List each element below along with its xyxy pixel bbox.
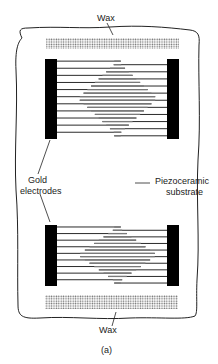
substrate-label-line1: Piezoceramic — [155, 176, 209, 186]
wax-bottom-label: Wax — [99, 325, 117, 335]
top-transducer — [45, 59, 179, 139]
right-electrode-bar — [167, 225, 179, 286]
gold-bottom-leader — [40, 194, 50, 222]
right-electrode-bar — [167, 59, 179, 139]
wax-strip-bottom — [45, 295, 178, 309]
gold-electrodes-label-line1: Gold — [28, 175, 47, 185]
gold-top-leader — [38, 140, 50, 174]
left-electrode-bar — [45, 225, 57, 286]
wax-top-leader — [107, 23, 113, 35]
substrate-label-line2: substrate — [166, 187, 203, 197]
left-electrode-bar — [45, 59, 57, 139]
wax-top-label: Wax — [97, 13, 115, 23]
wax-strip-top — [46, 38, 179, 49]
wax-bottom-leader — [112, 312, 116, 326]
figure-caption: (a) — [101, 345, 112, 355]
gold-electrodes-label-line2: electrodes — [20, 186, 62, 196]
bottom-transducer — [45, 225, 179, 286]
